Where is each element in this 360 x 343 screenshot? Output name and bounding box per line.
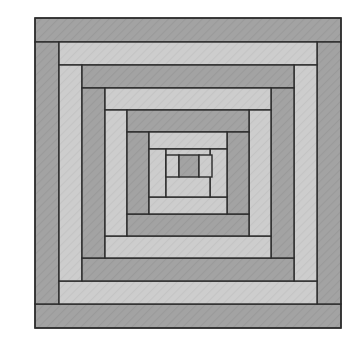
quilt-strip-bottom-4 [105, 236, 271, 258]
quilt-strip-top-5 [127, 110, 249, 132]
quilt-strip-right-2 [294, 65, 317, 281]
quilt-strip-bottom-1 [35, 304, 341, 328]
quilt-strip-top-4 [105, 88, 271, 110]
quilt-center-group [166, 149, 212, 197]
quilt-strip-left-6 [149, 149, 166, 197]
quilt-strip-bottom-5 [127, 214, 249, 236]
quilt-strip-bottom-6 [149, 197, 227, 214]
quilt-strip-top-1 [35, 18, 341, 42]
quilt-strip-top-3 [82, 65, 294, 88]
quilt-center-square [179, 155, 199, 177]
quilt-strip-right-4 [249, 110, 271, 236]
quilt-strip-top-6 [149, 132, 227, 149]
log-cabin-quilt-block-figure [0, 0, 360, 343]
quilt-center-left-piece [166, 155, 179, 177]
quilt-strip-left-1 [35, 42, 59, 304]
quilt-strip-left-5 [127, 132, 149, 214]
quilt-strip-top-2 [59, 42, 317, 65]
quilt-strip-left-3 [82, 88, 105, 258]
quilt-strip-left-4 [105, 110, 127, 236]
quilt-diagram-stage [0, 0, 360, 343]
quilt-strip-left-2 [59, 65, 82, 281]
quilt-strip-bottom-2 [59, 281, 317, 304]
quilt-strip-right-3 [271, 88, 294, 258]
quilt-strip-bottom-3 [82, 258, 294, 281]
quilt-strip-right-1 [317, 42, 341, 304]
quilt-strip-right-5 [227, 132, 249, 214]
quilt-center-right-piece [199, 155, 212, 177]
